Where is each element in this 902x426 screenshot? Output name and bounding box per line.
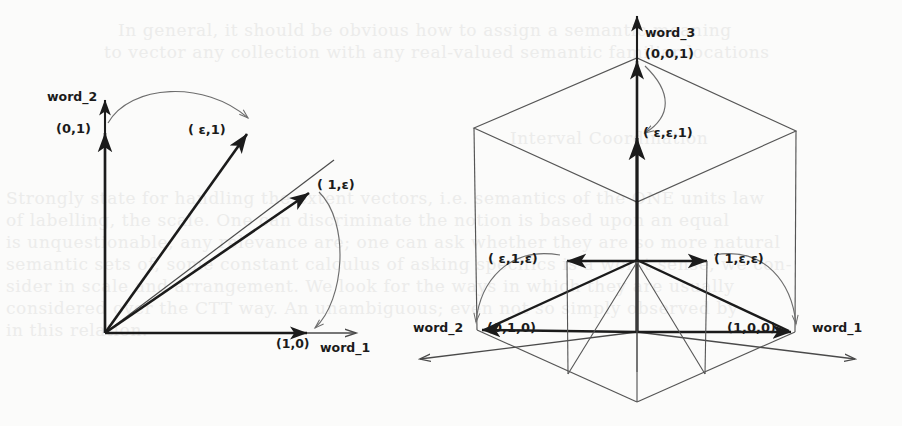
point-label-1-eps: ( 1,ε) <box>317 177 355 192</box>
fan-ray-right <box>637 262 705 374</box>
axis-label-word-2-2d: word_2 <box>47 89 97 104</box>
cube-edge-bottom-left <box>477 330 637 402</box>
figure-page: In general, it should be obvious how to … <box>0 0 902 426</box>
cube-edge-right-vertical <box>795 131 796 332</box>
cube-wireframe <box>474 58 796 402</box>
point-label-eps-eps-1: ( ε,ε,1) <box>643 125 693 140</box>
drop-line-right <box>705 261 707 374</box>
point-label-0-1: (0,1) <box>56 121 91 136</box>
figure-svg <box>0 0 902 426</box>
axis-label-word-2-3d: word_2 <box>413 320 463 335</box>
cube-edge-bottom-right <box>637 332 795 402</box>
point-label-0-1-0: (0,1,0) <box>487 320 536 335</box>
base-fan-rays <box>567 261 707 374</box>
axis-label-word-1-3d: word_1 <box>812 320 862 335</box>
panel-3d-graphics <box>420 16 855 402</box>
arc-1-eps-to-1-0 <box>315 192 340 328</box>
point-label-eps-1-eps: ( ε,1,ε) <box>488 251 538 266</box>
point-label-0-0-1: (0,0,1) <box>645 46 694 61</box>
arc-0-1-to-eps-1 <box>108 92 248 123</box>
axis-word-2 <box>420 332 637 359</box>
axis-word-1 <box>637 332 855 359</box>
axis-label-word-3: word_3 <box>645 25 695 40</box>
fan-ray-left <box>568 262 637 374</box>
arc-001-to-epseps1 <box>645 66 665 133</box>
cube-top-face <box>474 58 796 202</box>
vector-eps-1 <box>105 134 247 333</box>
panel-2d-graphics <box>105 92 356 333</box>
point-label-1-eps-eps: ( 1,ε,ε) <box>714 251 764 266</box>
diagonal-reference-ray <box>105 160 334 333</box>
vector-1-eps <box>105 193 309 333</box>
point-label-eps-1: ( ε,1) <box>188 122 226 137</box>
axis-label-word-1-2d: word_1 <box>320 340 370 355</box>
point-label-1-0: (1,0) <box>276 336 310 351</box>
point-label-1-0-0: (1,0,0) <box>727 320 776 335</box>
cube-edge-left-vertical <box>474 128 477 330</box>
drop-line-left <box>567 261 568 374</box>
